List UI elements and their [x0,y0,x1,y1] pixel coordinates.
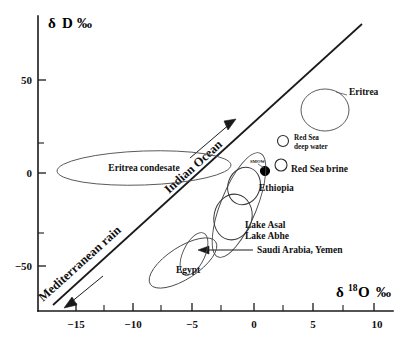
y-axis-title: δ D ‰ [48,15,92,31]
x-ticklabel-neg15: −15 [67,318,85,330]
x-ticklabel-neg5: −5 [186,318,198,330]
label-saudi-arabia-yemen: Saudi Arabia, Yemen [257,245,343,255]
mediterranean-rain-label: Mediterranean rain [36,223,124,304]
x-ticklabel-neg10: −10 [124,318,142,330]
label-egypt: Egypt [176,265,201,275]
y-ticklabel-neg50: −50 [15,260,33,272]
y-axis-ticks [38,80,46,266]
y-axis-title-delta: δ [48,15,56,31]
marker-red-sea-brine [275,159,287,171]
isotope-plot-figure: 50 0 −50 −15 −10 −5 0 5 10 δ D ‰ [0,0,409,359]
label-eritrea: Eritrea [349,87,379,97]
x-axis-ticks [76,303,374,311]
x-ticklabel-10: 10 [372,318,384,330]
plot-svg: 50 0 −50 −15 −10 −5 0 5 10 δ D ‰ [0,0,409,359]
y-axis-title-d: D [62,15,73,31]
marker-smow [260,166,269,175]
label-lake-asal: Lake Asal [245,220,286,230]
x-ticklabel-0: 0 [251,318,257,330]
x-axis-title-sup18: 18 [348,283,358,293]
label-red-sea-deep-water-line2: deep water [294,143,329,151]
label-lake-abhe: Lake Abhe [245,231,289,241]
label-red-sea-brine: Red Sea brine [291,164,348,174]
x-axis-title: δ 18 O ‰ [336,283,391,300]
x-axis-title-permil: ‰ [376,284,391,300]
x-axis-title-o: O [358,284,370,300]
x-ticklabel-5: 5 [310,318,316,330]
label-smow: SMOW [250,159,265,164]
region-egypt-outer [142,228,225,297]
region-eritrea [301,89,349,131]
y-axis-title-permil: ‰ [77,15,92,31]
marker-red-sea-deep-water [278,136,289,147]
x-axis-title-delta: δ [336,284,344,300]
label-eritrea-condensate: Eritrea condesate [108,163,179,173]
y-ticklabel-50: 50 [21,74,33,86]
label-ethiopia: Ethiopia [259,183,294,193]
label-red-sea-deep-water-line1: Red Sea [294,134,319,142]
smow-leader [258,164,264,168]
y-ticklabel-0: 0 [27,167,33,179]
indian-ocean-arrowhead [224,119,236,130]
